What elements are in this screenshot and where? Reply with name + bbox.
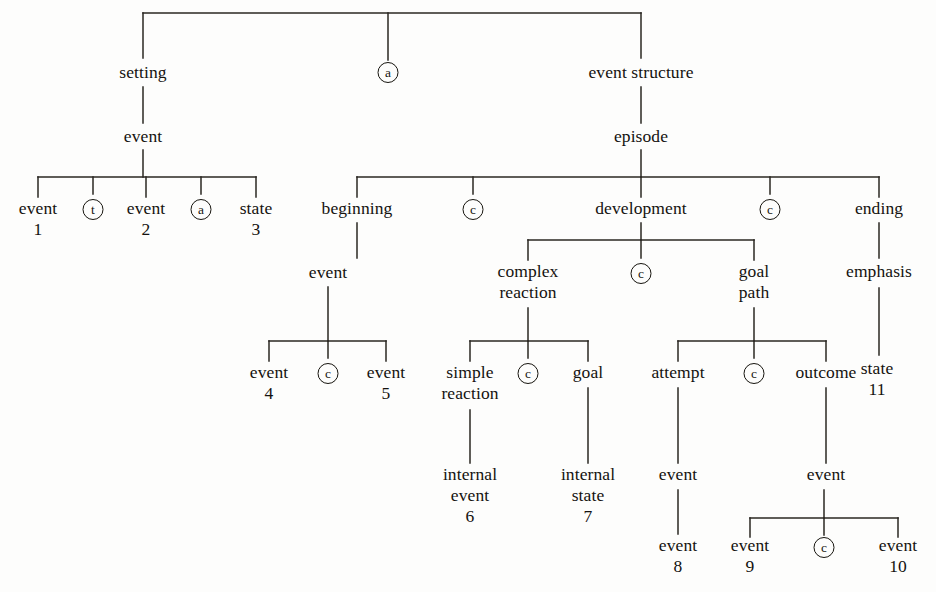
node-goal-path[interactable]: goal path <box>739 261 770 303</box>
node-connective-a-setting-label: a <box>198 202 204 217</box>
node-setting-event-label: event <box>124 126 162 147</box>
node-event-structure-label: event structure <box>589 62 694 83</box>
node-connective-c-7-label: c <box>821 540 827 555</box>
node-connective-c-3[interactable]: c <box>631 263 652 284</box>
node-connective-c-1-label: c <box>470 202 476 217</box>
node-root-connective-a-label: a <box>385 65 391 80</box>
node-internal-event-6[interactable]: internal event 6 <box>443 464 497 527</box>
node-event-5-line2: 5 <box>367 383 405 404</box>
node-event-5-line1: event <box>367 362 405 383</box>
node-root-connective-a[interactable]: a <box>378 62 399 83</box>
node-development-label: development <box>595 198 687 219</box>
node-outcome-event-label: event <box>807 464 845 485</box>
node-setting-event[interactable]: event <box>124 126 162 147</box>
node-event-4-line2: 4 <box>250 383 288 404</box>
node-event-9-line2: 9 <box>731 556 769 577</box>
node-goal-label: goal <box>573 362 604 383</box>
node-outcome[interactable]: outcome <box>796 362 857 383</box>
node-outcome-label: outcome <box>796 362 857 383</box>
node-connective-c-2[interactable]: c <box>760 199 781 220</box>
node-event-2-line2: 2 <box>127 219 165 240</box>
node-connective-c-1[interactable]: c <box>463 199 484 220</box>
node-internal-state-7[interactable]: internal state 7 <box>561 464 615 527</box>
node-beginning-event[interactable]: event <box>309 262 347 283</box>
node-connective-c-5-label: c <box>525 366 531 381</box>
node-internal-event-6-line3: 6 <box>443 506 497 527</box>
node-connective-c-3-label: c <box>638 266 644 281</box>
node-emphasis[interactable]: emphasis <box>846 261 912 282</box>
node-episode[interactable]: episode <box>614 126 668 147</box>
node-goal-path-line2: path <box>739 282 770 303</box>
node-simple-reaction[interactable]: simple reaction <box>441 362 498 404</box>
node-state-3-line2: 3 <box>240 219 273 240</box>
node-goal-path-line1: goal <box>739 261 770 282</box>
node-event-structure[interactable]: event structure <box>589 62 694 83</box>
node-attempt-label: attempt <box>651 362 704 383</box>
node-event-8[interactable]: event 8 <box>659 535 697 577</box>
node-event-8-line2: 8 <box>659 556 697 577</box>
node-emphasis-label: emphasis <box>846 261 912 282</box>
node-ending[interactable]: ending <box>855 198 903 219</box>
node-connective-t-label: t <box>91 202 95 217</box>
node-outcome-event[interactable]: event <box>807 464 845 485</box>
node-event-2-line1: event <box>127 198 165 219</box>
node-connective-c-6[interactable]: c <box>744 363 765 384</box>
node-state-3[interactable]: state 3 <box>240 198 273 240</box>
node-event-1-line1: event <box>19 198 57 219</box>
node-setting[interactable]: setting <box>119 62 166 83</box>
node-internal-state-7-line1: internal <box>561 464 615 485</box>
node-connective-c-2-label: c <box>767 202 773 217</box>
node-internal-state-7-line2: state <box>561 485 615 506</box>
node-complex-reaction-line2: reaction <box>498 282 559 303</box>
node-event-10-line1: event <box>879 535 917 556</box>
node-attempt-event-label: event <box>659 464 697 485</box>
node-setting-label: setting <box>119 62 166 83</box>
node-beginning-event-label: event <box>309 262 347 283</box>
node-connective-c-7[interactable]: c <box>814 537 835 558</box>
node-state-11-line1: state <box>861 358 894 379</box>
node-event-10[interactable]: event 10 <box>879 535 917 577</box>
node-connective-c-6-label: c <box>751 366 757 381</box>
node-beginning-label: beginning <box>322 198 393 219</box>
node-development[interactable]: development <box>595 198 687 219</box>
node-event-9-line1: event <box>731 535 769 556</box>
node-complex-reaction[interactable]: complex reaction <box>498 261 559 303</box>
node-connective-a-setting[interactable]: a <box>191 199 212 220</box>
node-attempt-event[interactable]: event <box>659 464 697 485</box>
node-simple-reaction-line2: reaction <box>441 383 498 404</box>
node-connective-c-4-label: c <box>325 366 331 381</box>
node-ending-label: ending <box>855 198 903 219</box>
node-event-5[interactable]: event 5 <box>367 362 405 404</box>
node-beginning[interactable]: beginning <box>322 198 393 219</box>
node-event-8-line1: event <box>659 535 697 556</box>
node-goal[interactable]: goal <box>573 362 604 383</box>
node-event-4[interactable]: event 4 <box>250 362 288 404</box>
node-event-10-line2: 10 <box>879 556 917 577</box>
node-event-1[interactable]: event 1 <box>19 198 57 240</box>
node-connective-c-5[interactable]: c <box>518 363 539 384</box>
node-complex-reaction-line1: complex <box>498 261 559 282</box>
node-episode-label: episode <box>614 126 668 147</box>
node-state-11[interactable]: state 11 <box>861 358 894 400</box>
node-simple-reaction-line1: simple <box>441 362 498 383</box>
node-event-4-line1: event <box>250 362 288 383</box>
tree-diagram-canvas: setting a event structure event episode … <box>0 0 936 592</box>
node-state-11-line2: 11 <box>861 379 894 400</box>
node-internal-event-6-line1: internal <box>443 464 497 485</box>
node-internal-state-7-line3: 7 <box>561 506 615 527</box>
node-state-3-line1: state <box>240 198 273 219</box>
node-connective-c-4[interactable]: c <box>318 363 339 384</box>
node-attempt[interactable]: attempt <box>651 362 704 383</box>
node-connective-t[interactable]: t <box>83 199 104 220</box>
node-event-9[interactable]: event 9 <box>731 535 769 577</box>
node-event-1-line2: 1 <box>19 219 57 240</box>
node-internal-event-6-line2: event <box>443 485 497 506</box>
node-event-2[interactable]: event 2 <box>127 198 165 240</box>
